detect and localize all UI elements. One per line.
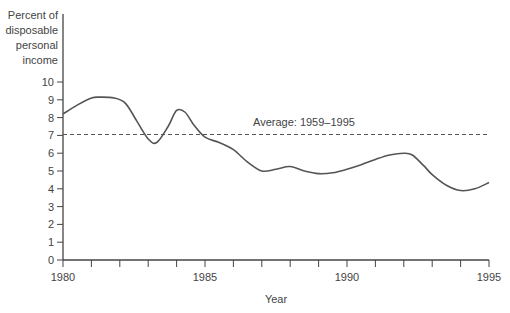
x-axis: 1980198519901995: [51, 260, 501, 283]
y-tick-label: 10: [42, 76, 54, 88]
y-tick-label: 4: [48, 183, 54, 195]
x-tick-label: 1985: [193, 271, 217, 283]
y-axis: 012345678910: [42, 14, 63, 266]
y-tick-label: 6: [48, 147, 54, 159]
y-tick-label: 0: [48, 254, 54, 266]
y-tick-label: 9: [48, 94, 54, 106]
y-tick-label: 3: [48, 201, 54, 213]
y-tick-label: 2: [48, 218, 54, 230]
x-tick-label: 1995: [477, 271, 501, 283]
average-label: Average: 1959–1995: [253, 116, 355, 128]
y-tick-label: 1: [48, 236, 54, 248]
x-tick-label: 1990: [335, 271, 359, 283]
x-tick-label: 1980: [51, 271, 75, 283]
y-tick-label: 8: [48, 112, 54, 124]
saving-rate-line: [63, 97, 489, 191]
y-tick-label: 7: [48, 129, 54, 141]
line-chart: 012345678910 1980198519901995 Average: 1…: [0, 0, 510, 313]
y-tick-label: 5: [48, 165, 54, 177]
x-axis-label: Year: [265, 293, 288, 305]
average-reference-line: Average: 1959–1995: [63, 116, 489, 135]
